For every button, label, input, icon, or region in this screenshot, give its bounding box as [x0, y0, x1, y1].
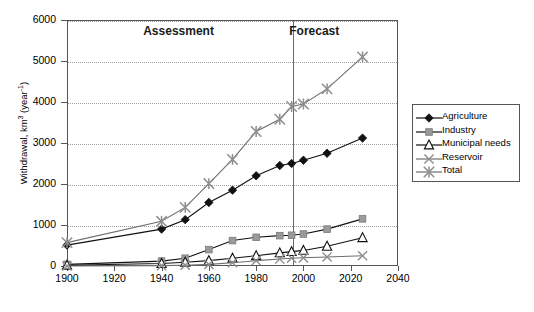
y-tick-label-2000: 2000: [8, 177, 56, 189]
plot-area: [67, 20, 398, 266]
x-tick-label-1980: 1980: [233, 272, 279, 284]
legend-item-reservoir[interactable]: Reservoir: [416, 150, 516, 163]
x-tick-label-1920: 1920: [91, 272, 137, 284]
y-tick-label-1000: 1000: [8, 218, 56, 230]
legend-label: Reservoir: [442, 151, 483, 163]
legend-label: Total: [442, 164, 462, 176]
x-tick-label-1900: 1900: [44, 272, 90, 284]
x-tick-mark-1980: [256, 266, 257, 271]
y-tick-label-3000: 3000: [8, 136, 56, 148]
x-tick-mark-1940: [162, 266, 163, 271]
legend-marker-asterisk-icon: [416, 164, 442, 176]
x-tick-label-2000: 2000: [280, 272, 326, 284]
y-tick-label-4000: 4000: [8, 95, 56, 107]
assessment-forecast-divider: [293, 21, 294, 265]
legend-label: Municipal needs: [442, 137, 511, 149]
y-axis-title: Withdrawal, km3 (year-1): [17, 38, 29, 228]
legend-item-industry[interactable]: Industry: [416, 123, 516, 136]
y-axis-title-sup-cubed: 3: [17, 116, 24, 120]
legend-marker-cross-icon: [416, 151, 442, 163]
x-tick-label-1960: 1960: [186, 272, 232, 284]
y-tick-label-5000: 5000: [8, 54, 56, 66]
gridline-y-6000: [68, 21, 397, 22]
legend-label: Agriculture: [442, 110, 487, 122]
legend-marker-filled-diamond-icon: [416, 110, 442, 122]
y-tick-label-0: 0: [8, 259, 56, 271]
legend-item-total[interactable]: Total: [416, 164, 516, 177]
legend-item-agriculture[interactable]: Agriculture: [416, 110, 516, 123]
legend: AgricultureIndustryMunicipal needsReserv…: [412, 104, 520, 182]
x-tick-label-2020: 2020: [328, 272, 374, 284]
y-axis-title-sup-inverse: -1: [17, 85, 24, 91]
y-tick-label-6000: 6000: [8, 13, 56, 25]
legend-item-municipal-needs[interactable]: Municipal needs: [416, 137, 516, 150]
legend-label: Industry: [442, 124, 476, 136]
chart-page: Withdrawal, km3 (year-1) 010002000300040…: [0, 0, 534, 312]
y-axis-title-main: Withdrawal, km: [18, 119, 29, 184]
assessment-label: Assessment: [143, 24, 214, 38]
gridline-y-2000: [68, 185, 397, 186]
gridline-y-3000: [68, 144, 397, 145]
x-tick-mark-2000: [303, 266, 304, 271]
gridline-y-4000: [68, 103, 397, 104]
x-tick-mark-1900: [67, 266, 68, 271]
legend-glyph: [426, 128, 433, 135]
x-tick-mark-2020: [351, 266, 352, 271]
x-tick-mark-1920: [114, 266, 115, 271]
gridline-y-5000: [68, 62, 397, 63]
legend-marker-open-triangle-icon: [416, 137, 442, 149]
x-tick-label-2040: 2040: [375, 272, 421, 284]
x-tick-mark-1960: [209, 266, 210, 271]
legend-marker-filled-square-icon: [416, 124, 442, 136]
x-tick-mark-2040: [398, 266, 399, 271]
y-axis-title-end: ): [18, 82, 29, 85]
legend-glyph: [425, 114, 433, 122]
forecast-label: Forecast: [289, 24, 339, 38]
x-tick-label-1940: 1940: [139, 272, 185, 284]
gridline-y-1000: [68, 226, 397, 227]
